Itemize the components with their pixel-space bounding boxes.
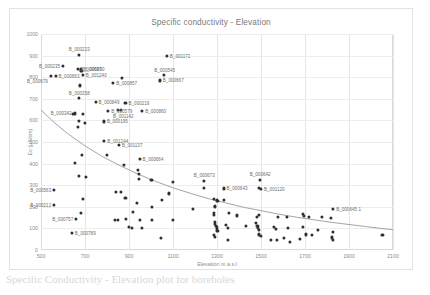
x-tick-label: 2100 <box>387 253 399 259</box>
data-point-label: B_000219 <box>128 101 149 106</box>
x-axis-label: Elevation m a.s.l <box>41 261 393 267</box>
y-tick-label: 100 <box>29 225 38 231</box>
data-point-label: B_000663 <box>59 73 80 78</box>
data-point-label: B_001172 <box>170 53 191 58</box>
data-point-label: B_000545 <box>154 67 175 72</box>
data-point-label: B_000642 <box>250 172 271 177</box>
chart-card: Specific conductivity - Elevation 010020… <box>9 8 413 270</box>
data-point-label: B_000235 <box>39 63 60 68</box>
data-point-label: B_001240 <box>86 72 107 77</box>
screenshot-root: Specific conductivity - Elevation 010020… <box>0 0 430 295</box>
data-point-label: B_000563 <box>30 187 51 192</box>
data-point-label: B_001142 <box>113 113 134 118</box>
figure-caption: Specific Conductivity - Elevation plot f… <box>6 276 235 285</box>
x-tick-label: 1100 <box>167 253 178 259</box>
y-tick-label: 600 <box>29 117 38 123</box>
data-point-label: B_000667 <box>163 78 184 83</box>
data-point-label: B_000860 <box>145 109 166 114</box>
y-axis-label: Ec (µS/cm) <box>27 129 33 156</box>
data-point-label: B_000789 <box>75 231 96 236</box>
plot-area: 01002003004005006007008009001000 5007009… <box>41 34 393 250</box>
data-point-label: B_000212 <box>30 203 51 208</box>
y-tick-label: 700 <box>29 96 38 102</box>
data-point-label: B_000664 <box>143 156 164 161</box>
data-point-label: B_001137 <box>122 142 143 147</box>
x-tick-label: 500 <box>37 253 46 259</box>
data-point-label: B_000342 <box>51 111 72 116</box>
data-point-label: B_000643 <box>227 186 248 191</box>
chart-title: Specific conductivity - Elevation <box>10 18 412 27</box>
x-tick-label: 700 <box>81 253 90 259</box>
data-point-label: B_000757 <box>52 217 73 222</box>
y-tick-label: 400 <box>29 161 38 167</box>
x-tick-label: 1500 <box>255 253 267 259</box>
x-tick-label: 1700 <box>299 253 311 259</box>
x-tick-label: 1300 <box>211 253 223 259</box>
gridline-vertical <box>393 34 394 250</box>
data-point-label: B_000679 <box>27 79 48 84</box>
data-point-label: B_000673 <box>194 173 215 178</box>
data-point-label: B_000645 1 <box>336 206 361 211</box>
data-point-label: B_000195 <box>107 119 128 124</box>
data-point-label: B_000857 <box>116 81 137 86</box>
data-point-label: B_000849 <box>99 100 120 105</box>
caption-strip: Specific Conductivity - Elevation plot f… <box>0 276 430 295</box>
data-point-label: B_001120 <box>264 186 285 191</box>
data-point-label: B_000223 <box>69 47 90 52</box>
y-tick-label: 1000 <box>26 31 38 37</box>
x-tick-label: 1900 <box>343 253 355 259</box>
x-tick-label: 900 <box>125 253 134 259</box>
data-point-label: B_000358 <box>69 90 90 95</box>
y-tick-label: 900 <box>29 53 38 59</box>
